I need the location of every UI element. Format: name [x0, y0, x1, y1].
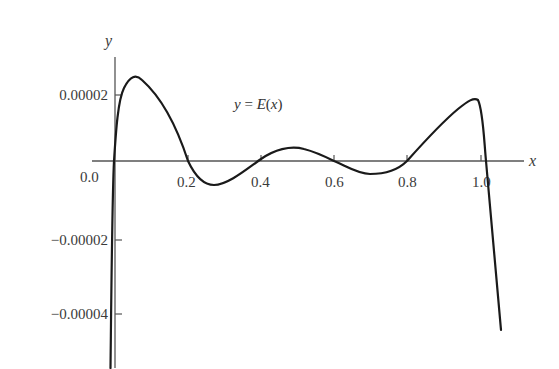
annotation-fn: E [256, 96, 266, 112]
annotation-paren-close: ) [277, 96, 282, 113]
x-axis-label: x [528, 152, 536, 169]
chart-canvas: 0.0 0.2 0.4 0.6 0.8 1.0 0.00002 −0.00002… [0, 0, 559, 369]
y-tick-label-pos2: 0.00002 [59, 87, 108, 103]
x-tick-label-0.4: 0.4 [251, 174, 270, 190]
y-tick-label-neg2: −0.00002 [51, 232, 108, 248]
y-axis-label: y [103, 32, 113, 50]
x-tick-label-0.6: 0.6 [325, 174, 344, 190]
curve-E-of-x [111, 77, 502, 368]
annotation-eq: = [241, 96, 257, 112]
x-tick-label-0.2: 0.2 [177, 174, 196, 190]
annotation-y: y [232, 96, 241, 112]
curve-annotation: y = E(x) [232, 96, 282, 113]
x-tick-label-0.8: 0.8 [398, 174, 417, 190]
y-tick-label-neg4: −0.00004 [51, 306, 109, 322]
x-tick-label-0.0: 0.0 [80, 169, 99, 185]
